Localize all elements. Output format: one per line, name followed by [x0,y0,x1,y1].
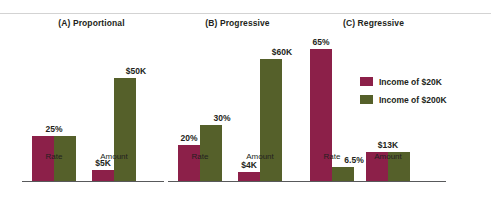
panel-c-axis-line [300,181,446,182]
panel-c-rate-bar-high-income[interactable] [332,167,354,181]
panel-b-amount-label-low: $4K [227,160,271,170]
panel-c-group-amount: $13K Amount [366,41,410,181]
panel-b-rate-label-low: 20% [167,133,211,143]
panel-a-plot-area: 25% Rate $5K $50K Amount [14,41,169,181]
panel-c-plot-area: 65% 6.5% Rate $13K Amount [296,41,451,181]
panel-b-plot-area: 20% 30% Rate $4K $60K Amount [160,41,315,181]
panel-c-tick-rate: Rate [310,152,354,161]
legend-item-high-income[interactable]: Income of $200K [360,92,447,107]
panel-b-amount-bar-low-income[interactable] [238,172,260,181]
panel-c-title: (C) Regressive [296,18,451,28]
panel-b-tick-amount: Amount [238,152,282,161]
panel-b-rate-bar-low-income[interactable] [178,145,200,181]
panel-b-title: (B) Progressive [160,18,315,28]
panel-c-rate-bar-low-income[interactable] [310,49,332,181]
panel-c-tick-amount: Amount [366,152,410,161]
legend-item-low-income[interactable]: Income of $20K [360,74,447,89]
panel-c-rate-label-low: 65% [299,37,343,47]
panel-b-tick-rate: Rate [178,152,222,161]
tax-structure-bar-chart-figure: (A) Proportional 25% Rate $5K $50K Amoun… [0,0,491,220]
panel-c-regressive: (C) Regressive 65% 6.5% Rate $13K Amount [296,0,451,220]
legend-label-high-income: Income of $200K [379,95,447,105]
panel-c-group-rate: 65% 6.5% Rate [310,41,354,181]
panel-a-proportional: (A) Proportional 25% Rate $5K $50K Amoun… [14,0,169,220]
panel-b-group-rate: 20% 30% Rate [178,41,222,181]
panel-b-group-amount: $4K $60K Amount [238,41,282,181]
panel-b-progressive: (B) Progressive 20% 30% Rate $4K $60K Am… [160,0,315,220]
panel-a-group-amount: $5K $50K Amount [92,41,136,181]
panel-a-group-rate: 25% Rate [32,41,76,181]
panel-a-rate-label-low: 25% [32,124,76,134]
panel-a-tick-rate: Rate [32,152,76,161]
legend-swatch-low-income-icon [360,77,373,86]
panel-a-tick-amount: Amount [92,152,136,161]
panel-b-axis-line [168,181,310,182]
panel-c-amount-label-low: $13K [366,140,410,150]
panel-a-amount-label-high: $50K [114,66,158,76]
panel-a-amount-bar-low-income[interactable] [92,170,114,181]
panel-a-axis-line [22,181,164,182]
chart-legend: Income of $20K Income of $200K [360,74,447,110]
legend-label-low-income: Income of $20K [379,77,442,87]
panel-a-title: (A) Proportional [14,18,169,28]
legend-swatch-high-income-icon [360,95,373,104]
